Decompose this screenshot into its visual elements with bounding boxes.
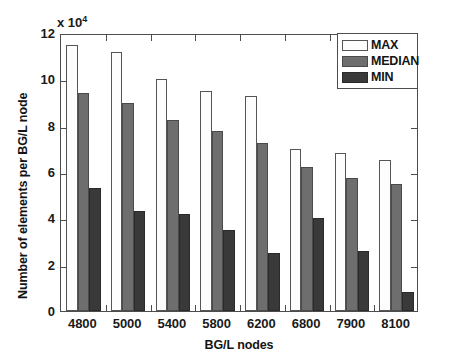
y-tick-label-2: 2	[15, 258, 55, 273]
y-tick-mark	[61, 174, 67, 175]
legend-swatch-max-icon	[342, 40, 368, 51]
y-tick-mark	[61, 267, 67, 268]
x-tick-mark	[374, 305, 375, 311]
y-axis-multiplier-exponent: 4	[82, 14, 87, 24]
y-tick-label-10: 10	[15, 72, 55, 87]
y-tick-mark	[61, 81, 67, 82]
y-tick-label-6: 6	[15, 165, 55, 180]
bar-median-4800	[78, 93, 90, 311]
bar-max-5400	[156, 79, 168, 311]
y-tick-mark	[61, 128, 67, 129]
x-tick-mark	[195, 305, 196, 311]
bar-median-6800	[301, 167, 313, 311]
x-tick-label-8100: 8100	[368, 316, 424, 331]
bar-min-5400	[179, 214, 191, 311]
x-tick-mark	[195, 35, 196, 41]
bar-median-5400	[167, 120, 179, 311]
x-tick-mark	[285, 35, 286, 41]
x-tick-mark	[240, 305, 241, 311]
bar-min-7900	[358, 251, 370, 311]
x-tick-mark	[106, 305, 107, 311]
x-tick-mark	[285, 305, 286, 311]
bar-median-6200	[257, 143, 269, 311]
bar-median-5000	[122, 103, 134, 312]
bar-min-8100	[402, 292, 414, 311]
legend-label-median: MEDIAN	[371, 54, 419, 68]
y-tick-mark	[411, 128, 417, 129]
x-tick-mark	[240, 35, 241, 41]
y-tick-label-8: 8	[15, 119, 55, 134]
x-tick-mark	[106, 35, 107, 41]
legend-item-max: MAX	[342, 37, 413, 53]
x-tick-mark	[151, 35, 152, 41]
bar-median-7900	[346, 178, 358, 311]
bar-max-6200	[245, 96, 257, 311]
chart-legend: MAX MEDIAN MIN	[337, 33, 418, 89]
y-tick-label-12: 12	[15, 26, 55, 41]
x-tick-mark	[151, 305, 152, 311]
legend-item-min: MIN	[342, 69, 413, 85]
y-tick-mark	[411, 220, 417, 221]
x-tick-mark	[330, 35, 331, 41]
y-tick-mark	[411, 267, 417, 268]
legend-label-max: MAX	[371, 38, 398, 52]
bar-max-8100	[379, 160, 391, 311]
legend-label-min: MIN	[371, 70, 393, 84]
y-tick-label-0: 0	[15, 304, 55, 319]
bar-min-6800	[313, 218, 325, 311]
bar-median-8100	[391, 184, 403, 311]
bar-max-5000	[111, 52, 123, 311]
chart-figure: x 104 Number of elements per BG/L node B…	[0, 0, 450, 362]
legend-swatch-median-icon	[342, 56, 368, 67]
y-tick-mark	[411, 174, 417, 175]
y-tick-mark	[61, 220, 67, 221]
y-axis-multiplier-text: x 10	[57, 15, 82, 30]
x-tick-mark	[330, 305, 331, 311]
bar-min-5800	[223, 230, 235, 311]
y-tick-label-4: 4	[15, 211, 55, 226]
bar-median-5800	[212, 131, 224, 311]
bar-max-7900	[335, 153, 347, 311]
bar-max-5800	[200, 91, 212, 311]
legend-swatch-min-icon	[342, 72, 368, 83]
bar-max-4800	[66, 45, 78, 311]
bar-min-5000	[134, 211, 146, 311]
bar-min-4800	[89, 188, 101, 311]
legend-item-median: MEDIAN	[342, 53, 413, 69]
x-axis-title: BG/L nodes	[60, 338, 418, 352]
y-axis-multiplier: x 104	[57, 14, 87, 30]
bar-max-6800	[290, 149, 302, 311]
bar-min-6200	[268, 253, 280, 311]
